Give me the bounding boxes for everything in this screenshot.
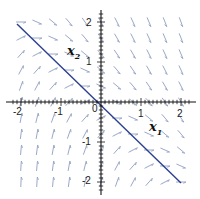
arrow-head [70, 40, 73, 41]
arrow-head [70, 145, 71, 148]
field-arrow [114, 50, 120, 58]
field-arrow [36, 113, 38, 123]
arrow-head [134, 104, 137, 105]
y-tick-2: 2 [86, 17, 92, 28]
field-arrow [84, 161, 86, 171]
x-tick-1: 1 [138, 108, 144, 119]
field-arrow [67, 129, 70, 138]
origin-label: 0 [92, 103, 98, 114]
arrow-head [102, 72, 105, 73]
x-tick-2: 2 [177, 108, 183, 119]
field-arrow [131, 178, 136, 187]
arrow-head [38, 129, 39, 132]
field-arrow [34, 66, 41, 74]
field-arrow [18, 50, 25, 58]
field-arrow [130, 66, 136, 74]
arrow-head [22, 113, 23, 116]
field-arrow [21, 145, 22, 155]
field-arrow [48, 36, 57, 40]
arrow-head [54, 24, 57, 25]
field-arrow [19, 66, 24, 75]
field-arrow [68, 161, 70, 171]
field-arrow [146, 82, 152, 90]
field-arrow [52, 129, 54, 139]
field-arrow [49, 19, 57, 25]
field-arrow [19, 81, 22, 90]
field-arrow [20, 129, 21, 139]
y-tick-neg1: -1 [82, 136, 91, 147]
field-arrow [52, 145, 54, 155]
field-arrow [67, 114, 72, 123]
field-arrow [53, 177, 54, 187]
field-arrow [115, 162, 120, 171]
field-arrow [35, 82, 40, 91]
field-arrow [36, 129, 38, 139]
field-arrow [36, 145, 37, 155]
y-tick-neg2: -2 [82, 175, 91, 186]
arrow-head [182, 152, 185, 153]
field-arrow [130, 82, 137, 90]
field-arrow [176, 164, 185, 168]
arrow-head [54, 145, 55, 148]
field-arrow [114, 66, 121, 74]
field-arrow [52, 161, 53, 171]
field-arrow [178, 130, 185, 138]
x-tick-neg1: -1 [54, 106, 63, 117]
arrow-head [38, 113, 39, 116]
arrow-head [118, 88, 121, 89]
field-arrow [160, 148, 169, 152]
field-arrow [65, 35, 73, 41]
arrow-head [54, 129, 55, 132]
field-arrow [82, 34, 89, 42]
arrow-head [166, 136, 169, 137]
field-arrow [130, 162, 137, 170]
field-arrow [146, 178, 153, 186]
field-arrow [115, 177, 118, 186]
field-arrow [114, 146, 121, 154]
field-arrow [82, 114, 89, 122]
field-arrow [32, 20, 41, 24]
phase-portrait: -2 -1 0 1 2 2 1 -1 -2 x2 x1 [0, 0, 200, 199]
field-arrow [37, 177, 38, 187]
field-arrow [68, 177, 69, 187]
arrow-head [70, 161, 71, 164]
field-arrow [66, 18, 73, 26]
trajectory-line [17, 24, 181, 183]
arrow-head [102, 177, 103, 180]
field-arrow [128, 116, 137, 120]
x2-label: x2 [66, 43, 81, 61]
field-arrow [21, 161, 22, 171]
field-arrow [50, 82, 57, 90]
field-arrow [162, 114, 169, 122]
arrow-head [22, 97, 23, 100]
arrow-head [86, 161, 87, 164]
field-arrow [68, 145, 70, 155]
x-tick-neg2: -2 [13, 106, 22, 117]
field-arrow [80, 68, 89, 72]
field-arrow [177, 147, 185, 153]
field-arrow [113, 83, 121, 89]
y-tick-1: 1 [86, 56, 92, 67]
field-arrow [37, 161, 38, 171]
